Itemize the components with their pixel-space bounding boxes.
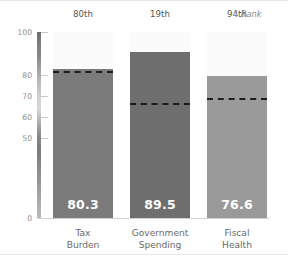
- reference-line-tax-burden: [53, 71, 113, 73]
- y-tick-label-0: 0: [0, 215, 32, 223]
- category-label-government-spending: Government Spending: [118, 228, 202, 251]
- bar-value-tax-burden: 80.3: [53, 198, 113, 212]
- reference-line-government-spending: [130, 103, 190, 105]
- category-label-government-spending-line1: Government: [118, 228, 202, 240]
- y-tick-mark-60: [41, 117, 48, 118]
- y-tick-label-80: 80: [0, 72, 32, 80]
- bar-fiscal-health[interactable]: 76.6: [207, 76, 267, 218]
- category-label-fiscal-health-line2: Health: [195, 240, 279, 252]
- category-label-government-spending-line2: Spending: [118, 240, 202, 252]
- bar-government-spending[interactable]: 89.5: [130, 52, 190, 218]
- category-label-fiscal-health: Fiscal Health: [195, 228, 279, 251]
- y-tick-mark-100: [41, 32, 48, 33]
- y-tick-mark-80: [41, 75, 48, 76]
- y-axis-spine: [37, 32, 41, 219]
- y-tick-label-100: 100: [0, 29, 32, 37]
- bar-value-government-spending: 89.5: [130, 198, 190, 212]
- category-label-fiscal-health-line1: Fiscal: [195, 228, 279, 240]
- y-tick-label-60: 60: [0, 114, 32, 122]
- x-axis-baseline: [37, 218, 269, 219]
- y-tick-label-50: 50: [0, 135, 32, 143]
- y-tick-mark-70: [41, 96, 48, 97]
- bar-value-fiscal-health: 76.6: [207, 198, 267, 212]
- reference-line-fiscal-health: [207, 98, 267, 100]
- y-tick-mark-50: [41, 138, 48, 139]
- economic-freedom-bar-chart: 80th 19th 94th ‹Rank 100 80 70 60 50 0 8…: [0, 0, 288, 256]
- category-label-tax-burden-line1: Tax: [41, 228, 125, 240]
- plot-area: 100 80 70 60 50 0 80.3 89.5 76.6 Tax Bur…: [0, 0, 288, 256]
- bar-tax-burden[interactable]: 80.3: [53, 69, 113, 218]
- category-label-tax-burden-line2: Burden: [41, 240, 125, 252]
- category-label-tax-burden: Tax Burden: [41, 228, 125, 251]
- y-tick-label-70: 70: [0, 93, 32, 101]
